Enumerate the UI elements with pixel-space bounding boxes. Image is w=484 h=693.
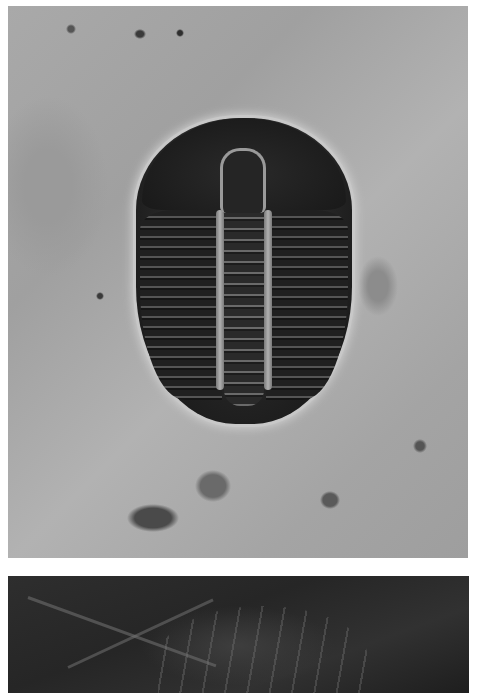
axial-furrow-right (264, 210, 272, 390)
left-pleural-lobe (140, 210, 222, 400)
glabella (220, 148, 266, 213)
trilobite-fossil (136, 118, 352, 424)
trilobite-photo-top (8, 6, 468, 558)
right-pleural-lobe (266, 210, 348, 400)
axial-furrow-left (216, 210, 224, 390)
trilobite-impression (158, 606, 368, 693)
trilobite-photo-bottom (8, 576, 469, 693)
axial-lobe (224, 210, 264, 406)
